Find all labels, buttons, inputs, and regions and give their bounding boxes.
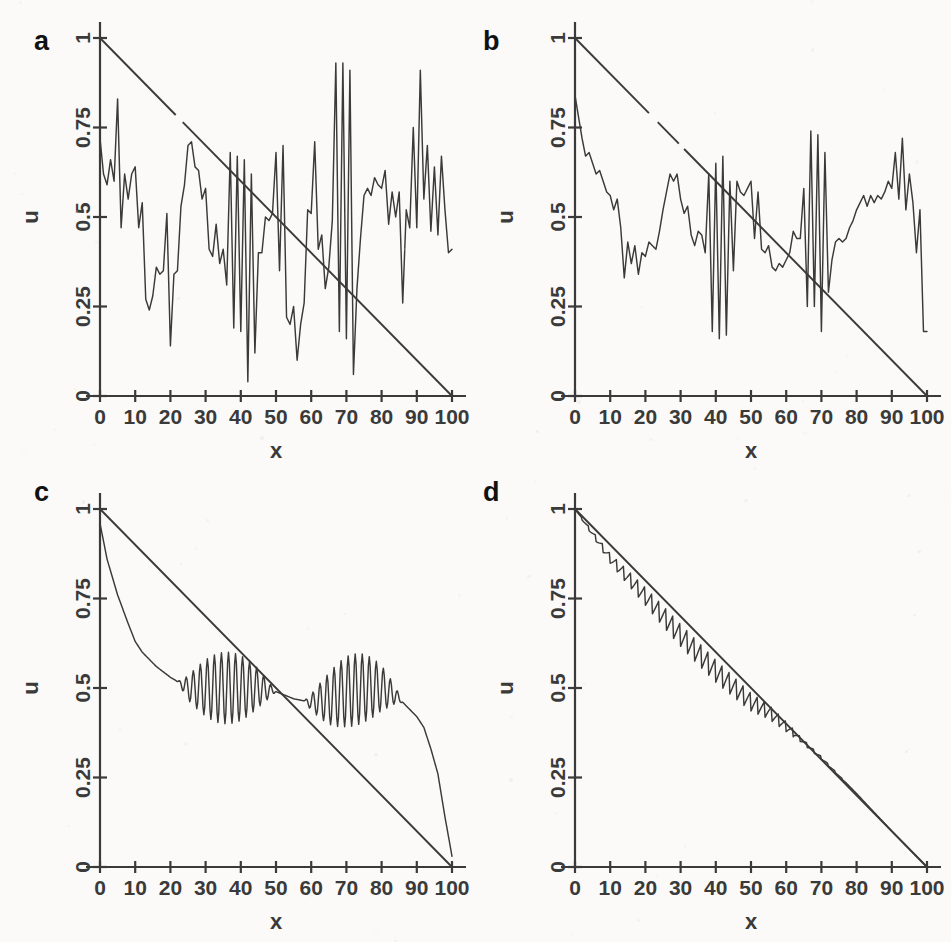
y-tick-label: 0.25 — [71, 757, 94, 798]
x-tick-label: 50 — [264, 876, 287, 899]
x-tick-label: 20 — [159, 405, 182, 428]
x-tick-label: 60 — [300, 876, 323, 899]
y-tick-label: 0.75 — [71, 578, 94, 619]
x-tick-label: 100 — [909, 405, 944, 428]
y-tick-label: 0 — [546, 390, 569, 402]
x-axis-label: x — [745, 438, 758, 463]
x-tick-label: 40 — [704, 876, 727, 899]
y-tick-label: 0.5 — [546, 673, 569, 703]
reference-line — [100, 509, 452, 867]
x-tick-label: 30 — [669, 876, 692, 899]
x-tick-label: 0 — [94, 405, 106, 428]
x-tick-label: 50 — [264, 405, 287, 428]
x-tick-label: 30 — [194, 405, 217, 428]
panel-c: c 00.250.50.7510102030405060708090100xu — [0, 471, 475, 942]
y-tick-label: 0.5 — [71, 673, 94, 703]
y-tick-label: 0.75 — [546, 107, 569, 148]
x-tick-label: 50 — [739, 405, 762, 428]
x-tick-label: 80 — [845, 876, 868, 899]
y-tick-label: 0.25 — [546, 286, 569, 327]
x-tick-label: 20 — [159, 876, 182, 899]
x-tick-label: 60 — [775, 876, 798, 899]
y-axis-label: u — [18, 681, 43, 694]
y-tick-label: 1 — [71, 32, 94, 44]
x-axis-label: x — [745, 909, 758, 934]
x-tick-label: 70 — [335, 876, 358, 899]
reference-line-segment — [658, 122, 679, 143]
panel-d-plot: 00.250.50.7510102030405060708090100xu — [475, 471, 951, 942]
x-tick-label: 50 — [739, 876, 762, 899]
x-tick-label: 100 — [434, 405, 469, 428]
x-tick-label: 0 — [94, 876, 106, 899]
x-tick-label: 100 — [909, 876, 944, 899]
panel-d: d 00.250.50.7510102030405060708090100xu — [475, 471, 951, 942]
x-tick-label: 20 — [634, 405, 657, 428]
x-tick-label: 10 — [124, 876, 147, 899]
numerical-solution-curve — [100, 63, 452, 382]
x-tick-label: 10 — [124, 405, 147, 428]
x-tick-label: 30 — [669, 405, 692, 428]
x-tick-label: 0 — [569, 876, 581, 899]
panel-b: b 00.250.50.7510102030405060708090100xu — [475, 0, 951, 471]
x-axis-label: x — [270, 909, 283, 934]
x-tick-label: 90 — [880, 405, 903, 428]
panel-a-plot: 00.250.50.7510102030405060708090100xu — [0, 0, 475, 471]
numerical-solution-curve — [100, 523, 452, 856]
y-tick-label: 0.25 — [546, 757, 569, 798]
x-tick-label: 70 — [335, 405, 358, 428]
x-tick-label: 70 — [810, 876, 833, 899]
x-tick-label: 40 — [229, 876, 252, 899]
x-tick-label: 60 — [775, 405, 798, 428]
x-tick-label: 80 — [370, 405, 393, 428]
x-tick-label: 40 — [229, 405, 252, 428]
figure-container: a 00.250.50.7510102030405060708090100xu … — [0, 0, 951, 942]
y-tick-label: 0 — [71, 390, 94, 402]
reference-line-segment — [100, 38, 176, 115]
x-tick-label: 30 — [194, 876, 217, 899]
y-tick-label: 1 — [546, 503, 569, 515]
y-tick-label: 0 — [546, 861, 569, 873]
y-tick-label: 1 — [546, 32, 569, 44]
y-tick-label: 0.25 — [71, 286, 94, 327]
x-tick-label: 90 — [405, 876, 428, 899]
x-tick-label: 100 — [434, 876, 469, 899]
x-tick-label: 80 — [370, 876, 393, 899]
x-tick-label: 70 — [810, 405, 833, 428]
x-tick-label: 80 — [845, 405, 868, 428]
x-tick-label: 90 — [405, 405, 428, 428]
x-tick-label: 20 — [634, 876, 657, 899]
y-tick-label: 0.75 — [71, 107, 94, 148]
x-tick-label: 10 — [599, 876, 622, 899]
panel-a: a 00.250.50.7510102030405060708090100xu — [0, 0, 475, 471]
reference-line-segment — [575, 38, 649, 113]
panel-c-plot: 00.250.50.7510102030405060708090100xu — [0, 471, 475, 942]
x-axis-label: x — [270, 438, 283, 463]
y-tick-label: 0.5 — [546, 202, 569, 232]
y-axis-label: u — [493, 210, 518, 223]
x-tick-label: 60 — [300, 405, 323, 428]
x-tick-label: 0 — [569, 405, 581, 428]
y-tick-label: 0.75 — [546, 578, 569, 619]
x-tick-label: 10 — [599, 405, 622, 428]
y-axis-label: u — [493, 681, 518, 694]
y-tick-label: 1 — [71, 503, 94, 515]
y-tick-label: 0.5 — [71, 202, 94, 232]
x-tick-label: 90 — [880, 876, 903, 899]
y-axis-label: u — [18, 210, 43, 223]
x-tick-label: 40 — [704, 405, 727, 428]
panel-b-plot: 00.250.50.7510102030405060708090100xu — [475, 0, 951, 471]
y-tick-label: 0 — [71, 861, 94, 873]
